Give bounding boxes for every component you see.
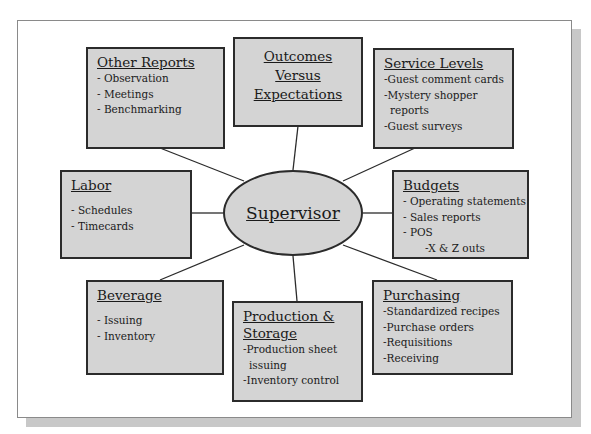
node-item: -Guest comment cards	[384, 72, 503, 88]
node-item: -Mystery shopper	[384, 88, 503, 104]
node-title: Labor	[71, 177, 181, 194]
node-item: -Production sheet	[243, 342, 352, 358]
node-title: Other Reports	[97, 54, 214, 71]
node-item: - Schedules	[71, 203, 181, 219]
node-item: - Benchmarking	[97, 102, 214, 118]
node-other-reports: Other Reports - Observation - Meetings -…	[86, 47, 225, 149]
connector-production	[293, 256, 297, 301]
node-item: -Guest surveys	[384, 119, 503, 135]
node-service-levels: Service Levels -Guest comment cards -Mys…	[373, 48, 514, 149]
center-node-supervisor: Supervisor	[223, 170, 363, 256]
node-production-storage: Production & Storage -Production sheet i…	[232, 301, 363, 402]
node-item: - Observation	[97, 71, 214, 87]
node-item: -Standardized recipes	[383, 304, 502, 320]
node-budgets: Budgets - Operating statements - Sales r…	[392, 170, 529, 259]
node-item: - Issuing	[97, 313, 213, 329]
node-title-line: Expectations	[244, 85, 352, 104]
node-item: reports	[384, 103, 503, 119]
node-item: -Purchase orders	[383, 320, 502, 336]
node-item: -X & Z outs	[403, 241, 518, 257]
node-title: Purchasing	[383, 287, 502, 304]
node-outcomes: Outcomes Versus Expectations	[233, 37, 363, 127]
node-item: -Requisitions	[383, 335, 502, 351]
node-title: Budgets	[403, 177, 518, 194]
node-beverage: Beverage - Issuing - Inventory	[86, 280, 224, 375]
connector-outcomes	[293, 126, 298, 170]
node-title: Beverage	[97, 287, 213, 304]
node-labor: Labor - Schedules - Timecards	[60, 170, 192, 259]
node-title: Service Levels	[384, 55, 503, 72]
node-title-line: Outcomes	[244, 47, 352, 66]
node-item: -Receiving	[383, 351, 502, 367]
node-item: - Inventory	[97, 329, 213, 345]
node-item: issuing	[243, 358, 352, 374]
node-item: - Operating statements	[403, 194, 518, 210]
node-item: - Timecards	[71, 219, 181, 235]
node-item: -Inventory control	[243, 373, 352, 389]
node-item: - Meetings	[97, 87, 214, 103]
node-title-line: Storage	[243, 325, 352, 342]
node-title-line: Production &	[243, 308, 352, 325]
node-item: - Sales reports	[403, 210, 518, 226]
node-item: - POS	[403, 225, 518, 241]
node-title-line: Versus	[244, 66, 352, 85]
node-purchasing: Purchasing -Standardized recipes -Purcha…	[372, 280, 513, 375]
center-label: Supervisor	[246, 203, 340, 223]
